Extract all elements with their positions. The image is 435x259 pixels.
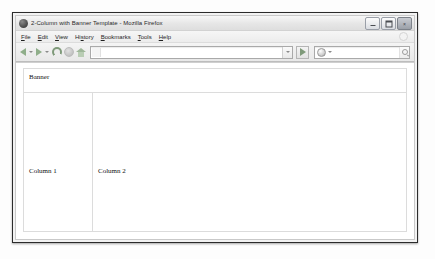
forward-arrow-icon[interactable] [36,48,42,56]
screenshot-root: 2-Column with Banner Template - Mozilla … [0,0,435,259]
menu-item-file[interactable]: File [21,34,31,40]
menu-item-tools[interactable]: Tools [138,34,152,40]
columns-region: Column 1 Column 2 [24,93,406,231]
menu-bar: File Edit View History Bookmarks Tools H… [16,31,414,43]
menu-label-edit: dit [42,34,48,40]
menu-label-history: tory [84,34,94,40]
maximize-icon [385,20,392,27]
close-button[interactable]: × [397,17,412,30]
magnifier-lens [402,49,408,55]
minimize-button[interactable] [365,17,380,30]
column-1-label: Column 1 [29,168,57,175]
menu-label-bookmarks: ookmarks [105,34,131,40]
maximize-button[interactable] [381,17,396,30]
address-dropdown-button[interactable] [282,47,292,58]
template-layout: Banner Column 1 Column 2 [23,68,407,232]
menubar-status-icon [399,32,408,41]
menu-label-file: ile [25,34,31,40]
search-engine-icon[interactable] [317,48,326,57]
page-favicon-icon [92,48,101,57]
address-chevron-down-icon [286,51,290,53]
home-body [78,52,84,57]
back-arrow-icon[interactable] [20,48,26,56]
firefox-globe-icon [19,19,28,28]
minimize-icon [370,25,375,26]
menu-item-edit[interactable]: Edit [38,34,48,40]
menu-item-history[interactable]: History [75,34,94,40]
menu-label-tools: ools [141,34,152,40]
back-dropdown-chevron-icon[interactable] [29,51,33,53]
search-icon[interactable] [399,47,409,58]
navigation-toolbar [16,43,414,62]
go-button[interactable] [296,46,309,59]
column-2-label: Column 2 [98,168,126,175]
title-bar[interactable]: 2-Column with Banner Template - Mozilla … [16,16,414,31]
address-bar[interactable] [90,46,293,59]
menu-item-help[interactable]: Help [159,34,171,40]
menu-label-view: iew [59,34,68,40]
column-2: Column 2 [93,93,406,231]
reload-icon[interactable] [52,47,62,57]
search-bar[interactable] [314,46,410,59]
browser-window-inner: 2-Column with Banner Template - Mozilla … [15,15,415,240]
window-title: 2-Column with Banner Template - Mozilla … [31,20,163,26]
browser-window: 2-Column with Banner Template - Mozilla … [12,12,418,243]
search-engine-chevron-icon[interactable] [328,51,332,53]
menu-item-view[interactable]: View [55,34,68,40]
home-icon[interactable] [76,48,86,57]
go-arrow-icon [300,48,306,56]
menu-label-help: elp [163,34,171,40]
column-1: Column 1 [24,93,93,231]
close-icon: × [403,21,406,26]
page-viewport: Banner Column 1 Column 2 [16,62,414,239]
forward-dropdown-chevron-icon[interactable] [45,51,49,53]
menu-item-bookmarks[interactable]: Bookmarks [101,34,131,40]
banner-label: Banner [29,74,49,81]
banner-region: Banner [24,69,406,93]
window-controls: × [365,17,412,30]
stop-icon[interactable] [64,47,74,57]
